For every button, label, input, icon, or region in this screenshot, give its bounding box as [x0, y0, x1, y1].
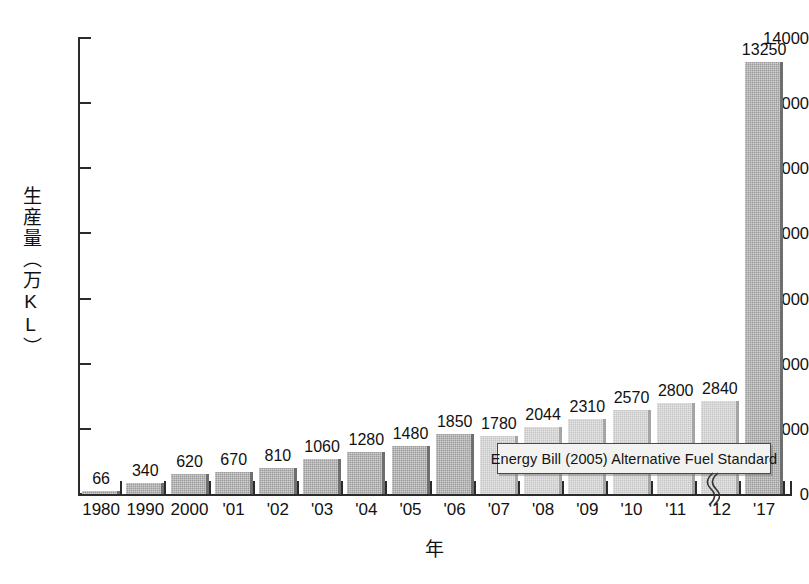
y-axis-tick — [78, 37, 91, 39]
x-axis-title: 年 — [0, 534, 809, 561]
bar-value-label: 13250 — [742, 41, 787, 59]
x-axis-tick — [739, 481, 741, 495]
bar — [303, 459, 341, 494]
bar-value-label: 2840 — [702, 380, 738, 398]
bar-value-label: 810 — [265, 447, 292, 465]
bar — [126, 483, 164, 494]
y-axis-title: 生産量（万KL） — [10, 186, 44, 358]
bar-chart: 生産量（万KL） 0200040006000800010000120001400… — [0, 0, 809, 584]
x-axis-tick-label: '11 — [665, 500, 686, 520]
x-axis-tick-label: '07 — [488, 500, 510, 520]
bar-value-label: 1850 — [437, 413, 473, 431]
x-axis-tick — [341, 481, 343, 495]
x-axis-tick — [651, 481, 653, 495]
bar — [347, 452, 385, 494]
bar-value-label: 670 — [220, 451, 247, 469]
x-axis-tick-label: '01 — [223, 500, 245, 520]
x-axis-tick — [562, 481, 564, 495]
x-axis-tick-label: '08 — [532, 500, 554, 520]
x-axis-tick-label: '05 — [399, 500, 421, 520]
x-axis-tick — [783, 481, 785, 495]
x-axis-tick — [164, 481, 166, 495]
x-axis-tick-label: '03 — [311, 500, 333, 520]
x-axis-tick — [297, 481, 299, 495]
x-axis-tick-label: '10 — [620, 500, 642, 520]
bar-value-label: 340 — [132, 462, 159, 480]
bar — [436, 434, 474, 494]
x-axis-tick — [474, 481, 476, 495]
x-axis-tick — [120, 481, 122, 495]
bar — [171, 474, 209, 494]
bar-value-label: 1780 — [481, 415, 517, 433]
x-axis-tick — [430, 481, 432, 495]
x-axis-tick-label: '04 — [355, 500, 377, 520]
bar-value-label: 2570 — [614, 389, 650, 407]
y-axis-tick — [78, 298, 91, 300]
bar — [392, 446, 430, 494]
x-axis-tick — [209, 481, 211, 495]
bar — [745, 62, 783, 494]
x-axis-tick-label: '09 — [576, 500, 598, 520]
bar-value-label: 66 — [92, 470, 110, 488]
axis-break-icon — [702, 472, 720, 506]
x-axis-tick-label: '02 — [267, 500, 289, 520]
bar-value-label: 2800 — [658, 382, 694, 400]
annotation-energy-bill: Energy Bill (2005) Alternative Fuel Stan… — [497, 443, 771, 474]
bar — [259, 468, 297, 494]
x-axis-tick-label: '06 — [444, 500, 466, 520]
x-axis-tick-label: 1990 — [126, 500, 164, 520]
x-axis-tick — [385, 481, 387, 495]
bar-value-label: 1060 — [304, 438, 340, 456]
bar-value-label: 1280 — [349, 431, 385, 449]
bar — [82, 491, 120, 494]
annotation-label: Energy Bill (2005) Alternative Fuel Stan… — [491, 451, 778, 467]
bar-value-label: 2044 — [525, 406, 561, 424]
x-axis-tick — [518, 481, 520, 495]
y-axis-tick — [78, 363, 91, 365]
x-axis-tick — [606, 481, 608, 495]
x-axis-tick — [253, 481, 255, 495]
bar-value-label: 2310 — [570, 398, 606, 416]
x-axis-tick-label: '17 — [753, 500, 775, 520]
y-axis-tick — [78, 102, 91, 104]
y-axis-tick — [78, 232, 91, 234]
x-axis-tick-label: 1980 — [82, 500, 120, 520]
bar-value-label: 620 — [176, 453, 203, 471]
y-axis-tick — [78, 428, 91, 430]
x-axis-tick-label: 2000 — [171, 500, 209, 520]
bar-value-label: 1480 — [393, 425, 429, 443]
x-axis-tick — [695, 481, 697, 495]
y-axis-tick — [78, 167, 91, 169]
x-axis-line — [78, 494, 792, 496]
bar — [215, 472, 253, 494]
